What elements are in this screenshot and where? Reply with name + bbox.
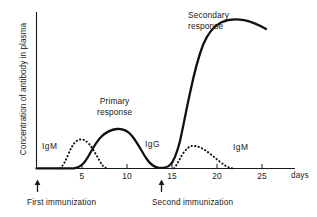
immune-response-figure: Concentration of antibody in plasma 5 10… — [0, 0, 317, 217]
igm-curve-secondary — [174, 146, 232, 168]
first-immunization-label: First immunization — [27, 198, 96, 208]
igm-label-secondary: IgM — [233, 142, 248, 152]
y-axis-label: Concentration of antibody in plasma — [19, 9, 29, 169]
igm-label-primary: IgM — [42, 141, 57, 151]
x-tick-label-15: 15 — [162, 171, 182, 181]
second-immunization-arrow — [159, 180, 165, 193]
x-axis-ticks — [82, 164, 262, 169]
x-axis-label: days — [291, 171, 309, 181]
igm-curve-primary — [60, 139, 109, 168]
primary-response-label: Primary response — [97, 96, 132, 117]
x-tick-label-5: 5 — [72, 171, 92, 181]
igg-label-primary: IgG — [145, 139, 160, 149]
x-tick-label-25: 25 — [252, 171, 272, 181]
x-tick-label-20: 20 — [207, 171, 227, 181]
second-immunization-label: Second immunization — [152, 198, 233, 208]
first-immunization-arrow — [35, 180, 41, 193]
secondary-response-label: Secondary response — [188, 10, 229, 31]
chart-canvas — [0, 0, 317, 217]
x-tick-label-10: 10 — [117, 171, 137, 181]
